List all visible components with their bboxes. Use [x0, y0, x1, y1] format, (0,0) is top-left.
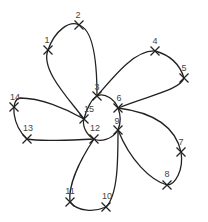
petal-lower-right — [118, 108, 182, 185]
point-label-10: 10 — [102, 191, 112, 201]
point-marker-10 — [102, 203, 111, 212]
point-label-11: 11 — [65, 186, 74, 196]
point-marker-2 — [75, 21, 84, 30]
point-label-1: 1 — [44, 35, 49, 45]
point-label-4: 4 — [152, 36, 157, 46]
point-marker-5 — [180, 74, 189, 83]
point-label-7: 7 — [178, 137, 183, 147]
petal-left — [14, 98, 94, 141]
point-label-8: 8 — [164, 169, 169, 179]
point-label-12: 12 — [90, 123, 100, 133]
point-labels: 123456789101112131415 — [10, 10, 187, 201]
point-label-2: 2 — [75, 10, 80, 20]
flower-diagram: 123456789101112131415 — [0, 0, 208, 222]
point-marker-1 — [44, 46, 53, 55]
point-label-6: 6 — [116, 93, 121, 103]
flower-curves — [14, 24, 184, 211]
point-label-9: 9 — [114, 116, 119, 126]
point-label-3: 3 — [94, 82, 99, 92]
point-label-5: 5 — [181, 63, 186, 73]
point-label-13: 13 — [23, 123, 33, 133]
point-label-15: 15 — [84, 104, 94, 114]
petal-upper-right — [97, 51, 184, 108]
point-label-14: 14 — [10, 92, 20, 102]
